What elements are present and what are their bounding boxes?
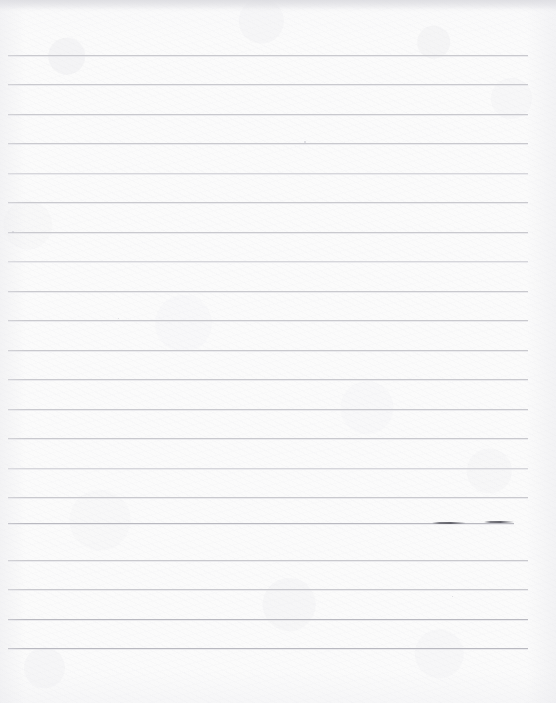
rule-line — [8, 320, 528, 321]
rule-line — [8, 648, 528, 649]
rule-line — [8, 468, 528, 469]
rule-line — [8, 350, 528, 351]
rule-line — [8, 55, 528, 56]
rule-line — [8, 560, 528, 561]
rule-line — [8, 497, 528, 498]
rule-line — [8, 173, 528, 174]
paper-fleck — [452, 596, 453, 597]
rule-line — [8, 409, 528, 410]
scanned-page — [0, 0, 556, 703]
rule-line — [8, 291, 528, 292]
paper-fleck — [118, 318, 119, 319]
rule-line — [8, 202, 528, 203]
rule-line — [8, 438, 528, 439]
rule-line — [8, 114, 528, 115]
rule-line — [8, 143, 528, 144]
rule-line — [8, 379, 528, 380]
rule-line — [8, 232, 528, 233]
rule-line — [8, 589, 528, 590]
rule-line — [8, 84, 528, 85]
rule-line — [8, 619, 528, 620]
rule-line — [8, 523, 514, 524]
ruled-lines-layer — [0, 0, 556, 703]
rule-line — [8, 261, 528, 262]
